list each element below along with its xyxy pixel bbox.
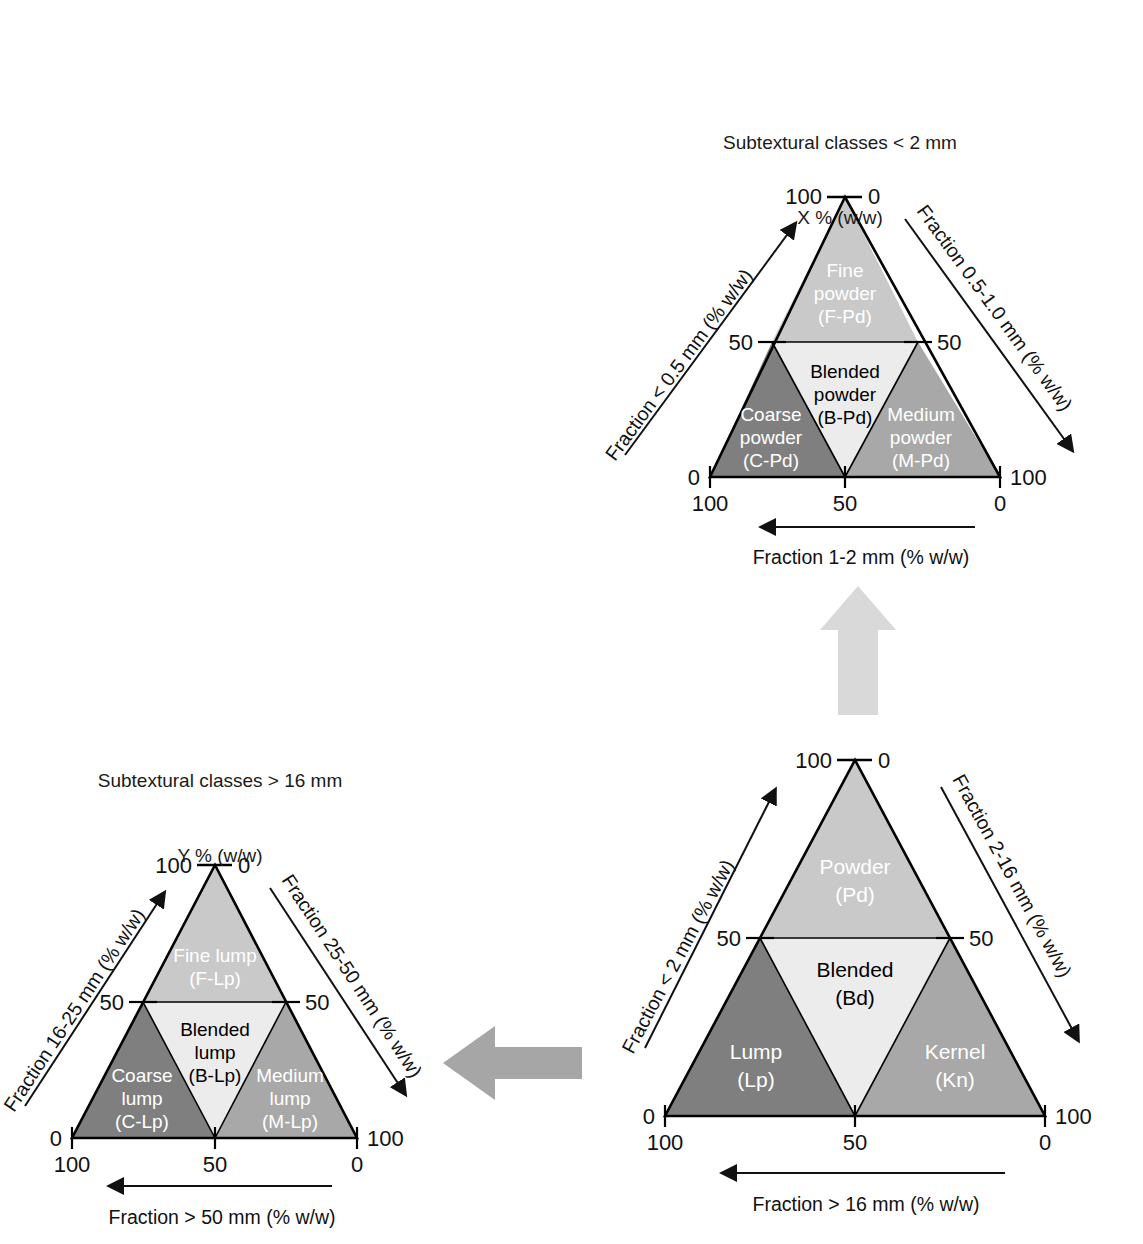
lump-tick-base-right-outer: 100 <box>367 1126 404 1151</box>
powder-tick-base-right-inner: 0 <box>994 491 1006 516</box>
fine-lump-line1: Fine lump <box>173 945 256 966</box>
blended-powder-line2: powder <box>814 384 877 405</box>
fine-powder-line2: powder <box>814 283 877 304</box>
label-medium-powder: Medium powder (M-Pd) <box>887 404 955 471</box>
powder-tick-base-left-inner: 100 <box>692 491 729 516</box>
label-coarse-powder: Coarse powder (C-Pd) <box>740 404 803 471</box>
powder-tick-base-mid: 50 <box>833 491 857 516</box>
lump-bottom-axis-label: Fraction > 50 mm (% w/w) <box>108 1206 335 1228</box>
medium-powder-line2: powder <box>890 427 953 448</box>
whole-tick-base-mid: 50 <box>843 1130 867 1155</box>
powder-tick-base-right-outer: 100 <box>1010 465 1047 490</box>
medium-powder-code: (M-Pd) <box>892 450 950 471</box>
powder-title-line-1: Subtextural classes < 2 mm <box>620 130 1060 155</box>
whole-tick-apex-right: 0 <box>878 748 890 773</box>
lump-tick-base-mid: 50 <box>203 1152 227 1177</box>
coarse-powder-code: (C-Pd) <box>743 450 799 471</box>
medium-powder-line1: Medium <box>887 404 955 425</box>
blended-code: (Bd) <box>835 986 875 1009</box>
powder-tick-base-left-outer: 0 <box>688 465 700 490</box>
arrow-left-lump <box>443 1026 582 1100</box>
lump-line1: Lump <box>730 1040 783 1063</box>
powder-line1: Powder <box>819 855 890 878</box>
powder-title-line-2: X % (w/w) <box>620 205 1060 230</box>
lump-diagram-title: Subtextural classes > 16 mm Y % (w/w) <box>20 718 420 918</box>
kernel-line1: Kernel <box>925 1040 986 1063</box>
powder-diagram-title: Subtextural classes < 2 mm X % (w/w) <box>620 80 1060 280</box>
whole-tick-base-right-inner: 0 <box>1039 1130 1051 1155</box>
lump-tick-base-left-inner: 100 <box>54 1152 91 1177</box>
fine-powder-code: (F-Pd) <box>818 306 872 327</box>
ternary-diagram-figure: Subtextural classes < 2 mm X % (w/w) Sub… <box>0 0 1143 1244</box>
lump-code: (Lp) <box>737 1068 774 1091</box>
medium-lump-line1: Medium <box>256 1065 324 1086</box>
blended-line1: Blended <box>816 958 893 981</box>
lump-tick-base-right-inner: 0 <box>351 1152 363 1177</box>
coarse-lump-code: (C-Lp) <box>115 1111 169 1132</box>
lump-title-line-1: Subtextural classes > 16 mm <box>20 768 420 793</box>
whole-tick-base-right-outer: 100 <box>1055 1104 1092 1129</box>
powder-bottom-axis-label: Fraction 1-2 mm (% w/w) <box>753 546 970 568</box>
whole-tick-base-left-inner: 100 <box>647 1130 684 1155</box>
arrow-up-powder <box>820 586 896 715</box>
blended-powder-line1: Blended <box>810 361 880 382</box>
medium-lump-line2: lump <box>269 1088 310 1109</box>
label-blended-powder: Blended powder (B-Pd) <box>810 361 880 428</box>
fine-lump-code: (F-Lp) <box>189 968 241 989</box>
coarse-lump-line2: lump <box>121 1088 162 1109</box>
blended-lump-line2: lump <box>194 1042 235 1063</box>
lump-tick-mid-right: 50 <box>305 990 329 1015</box>
coarse-powder-line1: Coarse <box>740 404 801 425</box>
blended-powder-code: (B-Pd) <box>818 407 873 428</box>
powder-tick-mid-right: 50 <box>937 330 961 355</box>
whole-tick-apex-left: 100 <box>795 748 832 773</box>
blended-lump-code: (B-Lp) <box>189 1065 242 1086</box>
whole-ternary-diagram: 100 0 50 50 0 100 100 50 0 Powder (Pd) B… <box>617 748 1092 1215</box>
blended-lump-line1: Blended <box>180 1019 250 1040</box>
powder-code: (Pd) <box>835 883 875 906</box>
lump-tick-base-left-outer: 0 <box>50 1126 62 1151</box>
lump-tick-mid-left: 50 <box>100 990 124 1015</box>
kernel-code: (Kn) <box>935 1068 975 1091</box>
coarse-lump-line1: Coarse <box>111 1065 172 1086</box>
powder-tick-mid-left: 50 <box>729 330 753 355</box>
whole-right-axis-label: Fraction 2-16 mm (% w/w) <box>948 770 1076 980</box>
whole-tick-mid-right: 50 <box>969 926 993 951</box>
medium-lump-code: (M-Lp) <box>262 1111 318 1132</box>
coarse-powder-line2: powder <box>740 427 803 448</box>
whole-tick-base-left-outer: 0 <box>643 1104 655 1129</box>
field-powder <box>760 760 950 938</box>
lump-title-line-2: Y % (w/w) <box>20 843 420 868</box>
whole-bottom-axis-label: Fraction > 16 mm (% w/w) <box>752 1193 979 1215</box>
whole-tick-mid-left: 50 <box>717 926 741 951</box>
